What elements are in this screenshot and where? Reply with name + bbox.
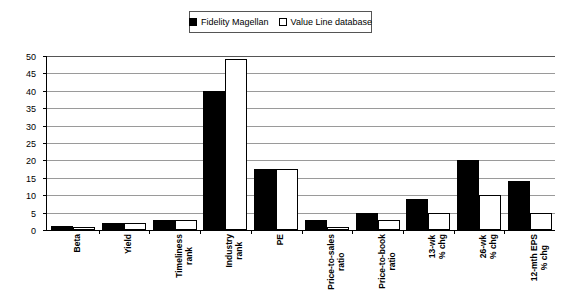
x-axis-label: Beta	[72, 234, 82, 252]
bar	[327, 227, 349, 230]
bar-group	[504, 56, 555, 230]
y-axis-tick: 35	[43, 108, 47, 109]
bar-group	[251, 56, 302, 230]
bar	[254, 169, 276, 230]
bar-group	[302, 56, 353, 230]
y-axis-tick-label: 10	[26, 192, 36, 201]
x-axis-label-cell: Price-to-salesratio	[301, 234, 352, 302]
y-axis-tick: 40	[43, 91, 47, 92]
legend-label: Value Line database	[291, 18, 372, 27]
bar	[225, 59, 247, 230]
bars-layer	[48, 56, 555, 230]
y-axis-tick: 10	[43, 195, 47, 196]
y-axis-tick-label: 30	[26, 122, 36, 131]
x-axis-label: 12-mth EPS% chg	[529, 234, 549, 281]
bar	[276, 169, 298, 230]
x-axis-label: PE	[275, 234, 285, 245]
y-axis-tick-label: 40	[26, 87, 36, 96]
chart-legend: Fidelity Magellan Value Line database	[189, 11, 372, 33]
x-axis-label: Industryrank	[224, 234, 244, 268]
y-axis-tick: 25	[43, 143, 47, 144]
x-axis-label-cell: 12-mth EPS% chg	[503, 234, 554, 302]
bar	[479, 195, 501, 230]
x-axis-label: Timelinessrank	[174, 234, 194, 278]
bar	[51, 226, 73, 230]
x-axis-label-cell: Price-to-bookratio	[351, 234, 402, 302]
bar-group	[48, 56, 99, 230]
bar-group	[454, 56, 505, 230]
legend-entry-fidelity-magellan: Fidelity Magellan	[189, 18, 269, 27]
bar-group	[99, 56, 150, 230]
y-axis-tick-label: 25	[26, 140, 36, 149]
bar	[457, 160, 479, 230]
y-axis-tick: 0	[43, 230, 47, 231]
x-axis-label-cell: Beta	[47, 234, 98, 302]
chart-plot-area: 05101520253035404550	[46, 56, 555, 231]
y-axis-tick: 5	[43, 213, 47, 214]
bar-group	[149, 56, 200, 230]
x-axis-label-cell: 26-wk% chg	[453, 234, 504, 302]
bar	[73, 227, 95, 230]
bar	[428, 213, 450, 230]
bar-group	[403, 56, 454, 230]
y-axis-tick: 50	[43, 56, 47, 57]
x-axis-label-cell: Timelinessrank	[148, 234, 199, 302]
hollow-square-icon	[279, 18, 287, 26]
y-axis-tick: 20	[43, 160, 47, 161]
x-axis-label-cell: Industryrank	[199, 234, 250, 302]
bar	[203, 91, 225, 230]
x-axis-label: 26-wk% chg	[478, 234, 498, 259]
x-axis-label: Price-to-bookratio	[377, 234, 397, 289]
y-axis-tick-label: 45	[26, 70, 36, 79]
bar	[406, 199, 428, 230]
y-axis-tick: 15	[43, 178, 47, 179]
y-axis-tick: 45	[43, 73, 47, 74]
bar	[175, 220, 197, 230]
bar	[508, 181, 530, 230]
bar	[124, 223, 146, 230]
bar-group	[200, 56, 251, 230]
bar	[305, 220, 327, 230]
x-axis-label-cell: 13-wk% chg	[402, 234, 453, 302]
x-axis-label: Price-to-salesratio	[326, 234, 346, 290]
x-axis-label: 13-wk% chg	[427, 234, 447, 259]
bar	[102, 223, 124, 230]
filled-square-icon	[189, 18, 197, 26]
bar	[356, 213, 378, 230]
x-axis-label-cell: Yield	[98, 234, 149, 302]
y-axis-tick-label: 20	[26, 157, 36, 166]
y-axis-tick-label: 50	[26, 53, 36, 62]
bar	[153, 220, 175, 230]
y-axis-tick-label: 5	[31, 209, 36, 218]
x-axis-labels: BetaYieldTimelinessrankIndustryrankPEPri…	[47, 234, 554, 302]
bar	[530, 213, 552, 230]
bar-group	[352, 56, 403, 230]
y-axis-tick-label: 15	[26, 174, 36, 183]
y-axis-tick-label: 35	[26, 105, 36, 114]
x-axis-label: Yield	[123, 234, 133, 254]
legend-entry-value-line-database: Value Line database	[279, 18, 372, 27]
y-axis-tick: 30	[43, 126, 47, 127]
x-axis-label-cell: PE	[250, 234, 301, 302]
bar	[378, 220, 400, 230]
y-axis-tick-label: 0	[31, 227, 36, 236]
legend-label: Fidelity Magellan	[201, 18, 269, 27]
